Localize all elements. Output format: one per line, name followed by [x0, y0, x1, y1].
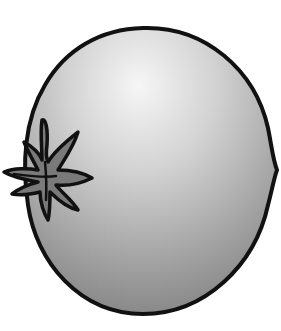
tomato-illustration [0, 0, 281, 331]
